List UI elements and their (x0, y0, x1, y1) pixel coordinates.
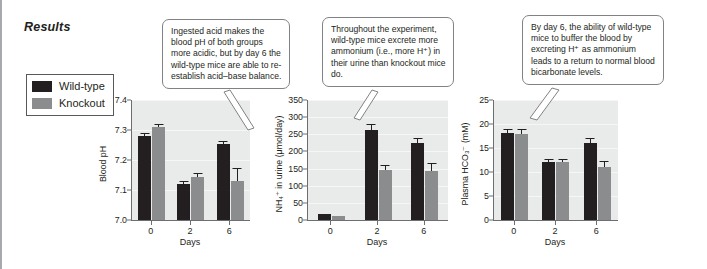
x-tick-mark (377, 221, 378, 225)
bar-fill (217, 144, 230, 220)
error-bar (503, 129, 512, 133)
x-axis-label: Days (131, 237, 249, 247)
callout-tail-blood-ph-icon (202, 88, 322, 148)
x-tick-mark (330, 221, 331, 225)
bar-wild-type (501, 133, 514, 220)
bar-knockout (515, 134, 528, 220)
bar-wild-type (584, 143, 597, 220)
x-tick-mark (151, 221, 152, 225)
x-axis-label: Days (493, 237, 617, 247)
legend-item-wild-type: Wild-type (32, 79, 105, 94)
x-tick-label: 2 (374, 226, 379, 236)
y-tick-label: 10 (479, 167, 489, 177)
callout-tail-bicarbonate-icon (512, 86, 632, 146)
error-bar-cap (600, 161, 609, 162)
bar-fill (425, 171, 438, 220)
error-bar (558, 159, 567, 163)
bar-fill (584, 143, 597, 220)
bar-fill (177, 184, 190, 220)
bar-wild-type (411, 143, 424, 220)
error-bar-line (237, 168, 238, 180)
y-tick-label: 50 (293, 198, 303, 208)
x-tick-mark (229, 221, 230, 225)
y-tick-label: 7.1 (115, 185, 127, 195)
callout-bicarbonate: By day 6, the ability of wild-type mice … (522, 15, 664, 85)
bar-wild-type (542, 162, 555, 220)
y-axis-label-text: Blood pH (98, 104, 108, 224)
x-axis-label: Days (307, 237, 447, 247)
callout-blood-ph: Ingested acid makes the blood pH of both… (162, 19, 290, 89)
y-tick-label: 15 (479, 143, 489, 153)
x-axis: 026Days (131, 221, 249, 247)
error-bar-cap (154, 124, 163, 125)
y-tick-label: 150 (288, 164, 303, 174)
error-bar-cap (193, 173, 202, 174)
x-tick-label: 0 (328, 226, 333, 236)
bar-knockout (332, 216, 345, 220)
y-axis-label-text: Plasma HCO₃⁻ (mM) (460, 104, 470, 224)
y-tick-label: 25 (479, 95, 489, 105)
results-figure: Results Wild-type Knockout Ingested acid… (0, 0, 707, 269)
bar-fill (152, 127, 165, 220)
bar-knockout (152, 127, 165, 220)
bar-group (132, 100, 171, 220)
bar-fill (411, 143, 424, 220)
x-tick-mark (190, 221, 191, 225)
bar-knockout (379, 170, 392, 220)
bar-knockout (191, 177, 204, 220)
bar-fill (515, 134, 528, 220)
bar-knockout (556, 162, 569, 220)
y-tick-label: 7.4 (115, 95, 127, 105)
y-axis-label: Plasma HCO₃⁻ (mM) (460, 104, 470, 224)
x-axis: 026Days (493, 221, 617, 247)
callout-ammonium-text: Throughout the experiment, wild-type mic… (331, 24, 446, 80)
error-bar-line (431, 163, 432, 171)
y-axis-label: Blood pH (98, 104, 108, 224)
y-tick-label: 20 (479, 119, 489, 129)
legend-swatch-wild-type-icon (32, 81, 52, 92)
legend-item-knockout: Knockout (32, 96, 105, 111)
error-bar (381, 165, 390, 169)
error-bar (600, 161, 609, 167)
x-tick-label: 0 (148, 226, 153, 236)
x-tick-mark (596, 221, 597, 225)
x-axis: 026Days (307, 221, 447, 247)
bar-knockout (598, 167, 611, 220)
error-bar-cap (381, 165, 390, 166)
y-tick-label: 7.0 (115, 215, 127, 225)
error-bar (140, 133, 149, 135)
callout-bicarbonate-text: By day 6, the ability of wild-type mice … (531, 22, 656, 78)
bar-wild-type (177, 184, 190, 220)
error-bar (233, 168, 242, 180)
bar-fill (318, 214, 331, 220)
bar-wild-type (138, 136, 151, 220)
y-tick-label: 7.2 (115, 155, 127, 165)
bar-knockout (231, 181, 244, 220)
bar-fill (191, 177, 204, 220)
error-bar (179, 181, 188, 183)
x-tick-label: 6 (227, 226, 232, 236)
callout-tail-ammonium-icon (332, 88, 452, 148)
page-title: Results (24, 20, 71, 34)
error-bar-cap (558, 159, 567, 160)
bar-fill (231, 181, 244, 220)
legend-swatch-knockout-icon (32, 98, 52, 109)
bar-fill (598, 167, 611, 220)
x-tick-label: 2 (552, 226, 557, 236)
error-bar-cap (179, 181, 188, 182)
error-bar (154, 124, 163, 127)
legend-label-wild-type: Wild-type (59, 81, 105, 92)
x-tick-mark (555, 221, 556, 225)
bar-wild-type (217, 144, 230, 220)
error-bar-cap (427, 163, 436, 164)
bar-fill (556, 162, 569, 220)
bar-knockout (425, 171, 438, 220)
bar-wild-type (318, 214, 331, 220)
callout-blood-ph-text: Ingested acid makes the blood pH of both… (171, 26, 282, 82)
x-tick-label: 0 (511, 226, 516, 236)
x-tick-label: 2 (187, 226, 192, 236)
y-tick-label: 100 (288, 181, 303, 191)
bar-fill (542, 162, 555, 220)
error-bar-cap (233, 168, 242, 169)
x-tick-label: 6 (594, 226, 599, 236)
